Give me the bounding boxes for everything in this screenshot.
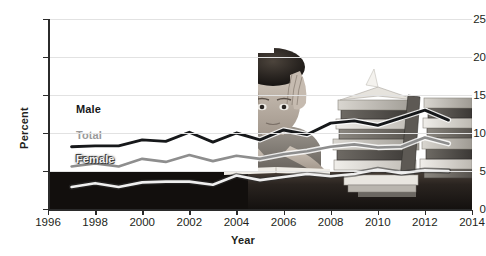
series-label-male: Male	[76, 103, 101, 115]
gridline-5	[48, 171, 472, 172]
y-tick-label-15: 15	[444, 89, 486, 101]
y-tick-label-10: 10	[444, 127, 486, 139]
x-tick-2004	[236, 210, 237, 215]
gridline-20	[48, 57, 472, 58]
x-tick-label-2000: 2000	[129, 216, 155, 228]
y-tick-20	[43, 57, 48, 58]
series-label-total: Total	[76, 129, 102, 141]
x-tick-label-2012: 2012	[412, 216, 438, 228]
x-tick-1996	[48, 210, 49, 215]
chart-figure: Male Total Female 0510152025 19961998200…	[0, 0, 486, 256]
x-tick-label-2014: 2014	[459, 216, 485, 228]
x-tick-label-1996: 1996	[35, 216, 61, 228]
x-tick-label-2002: 2002	[177, 216, 203, 228]
gridline-10	[48, 133, 472, 134]
x-tick-2010	[378, 210, 379, 215]
plot-area: Male Total Female	[48, 19, 472, 209]
x-tick-label-1998: 1998	[82, 216, 108, 228]
y-axis-line	[48, 19, 50, 210]
series-label-female: Female	[76, 153, 115, 165]
x-tick-2002	[189, 210, 190, 215]
y-tick-label-0: 0	[444, 203, 486, 215]
y-tick-25	[43, 19, 48, 20]
y-axis-title: Percent	[18, 107, 30, 149]
gridline-15	[48, 95, 472, 96]
y-tick-10	[43, 133, 48, 134]
x-axis-line	[48, 209, 472, 211]
x-tick-2008	[331, 210, 332, 215]
y-tick-label-20: 20	[444, 51, 486, 63]
gridline-25	[48, 19, 472, 20]
y-tick-5	[43, 171, 48, 172]
x-tick-2012	[425, 210, 426, 215]
y-tick-15	[43, 95, 48, 96]
x-tick-1998	[95, 210, 96, 215]
x-tick-2000	[142, 210, 143, 215]
x-tick-label-2004: 2004	[224, 216, 250, 228]
x-tick-label-2006: 2006	[271, 216, 297, 228]
x-tick-label-2010: 2010	[365, 216, 391, 228]
y-tick-label-5: 5	[444, 165, 486, 177]
x-tick-2006	[284, 210, 285, 215]
data-series-layer	[48, 19, 472, 209]
y-tick-label-25: 25	[444, 13, 486, 25]
x-axis-title: Year	[0, 234, 486, 246]
x-tick-label-2008: 2008	[318, 216, 344, 228]
